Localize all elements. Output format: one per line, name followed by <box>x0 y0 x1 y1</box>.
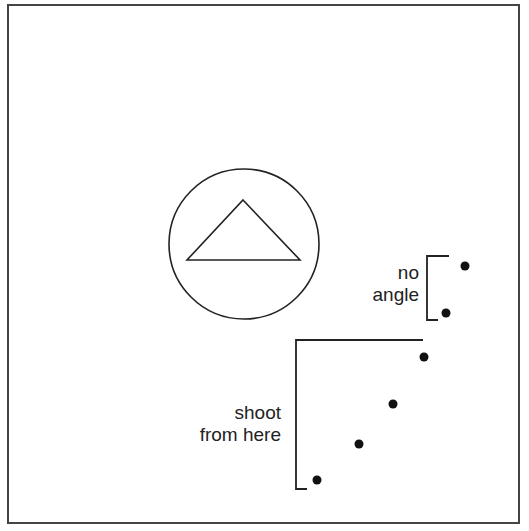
point-marker <box>442 309 451 318</box>
target-circle <box>169 169 319 319</box>
no-angle-line2: angle <box>373 284 420 306</box>
no-angle-points <box>442 262 470 318</box>
shoot-points <box>313 353 429 485</box>
shoot-from-here-label: shoot from here <box>200 402 281 446</box>
no-angle-line1: no <box>373 262 420 284</box>
target-icon <box>169 169 319 319</box>
diagram-canvas <box>0 0 529 531</box>
shoot-from-here-bracket <box>296 340 423 489</box>
point-marker <box>355 440 364 449</box>
point-marker <box>420 353 429 362</box>
triangle-icon <box>187 200 300 260</box>
shoot-from-here-line2: from here <box>200 424 281 446</box>
point-marker <box>461 262 470 271</box>
point-marker <box>313 476 322 485</box>
point-marker <box>389 400 398 409</box>
no-angle-label: no angle <box>373 262 420 306</box>
shoot-from-here-line1: shoot <box>200 402 281 424</box>
